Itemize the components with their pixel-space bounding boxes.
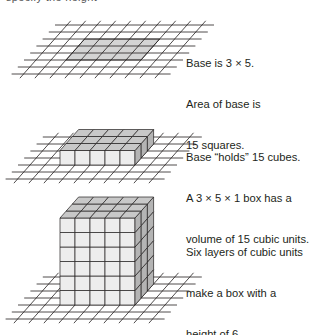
- caption-line: Base “holds” 15 cubes.: [186, 151, 309, 165]
- base-grid-diagram: [12, 21, 214, 78]
- caption-line: Base is 3 × 5.: [186, 57, 261, 71]
- caption-line: A 3 × 5 × 1 box has a: [186, 192, 309, 206]
- caption-line: Six layers of cubic units: [186, 246, 306, 260]
- caption-line: height of 6.: [186, 328, 306, 335]
- six-layer-box-diagram: [6, 197, 202, 323]
- caption-line: make a box with a: [186, 287, 306, 301]
- one-layer-box-diagram: [6, 130, 202, 184]
- caption-six-layers: Six layers of cubic units make a box wit…: [186, 219, 306, 335]
- caption-line: Area of base is: [186, 98, 261, 112]
